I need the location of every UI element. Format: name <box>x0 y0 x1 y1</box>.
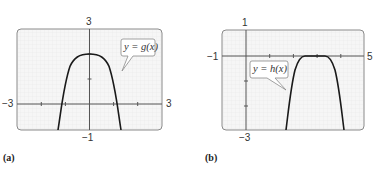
graph-b-function-label: y = h(x) <box>253 63 287 74</box>
graph-a-label-right: 3 <box>166 99 172 109</box>
graph-a-canvas <box>0 0 187 176</box>
graph-b-canvas <box>187 0 374 176</box>
graph-b-label-right: 5 <box>367 52 373 62</box>
graph-a-label-left: −3 <box>2 99 13 109</box>
graph-b-caption: (b) <box>205 152 217 163</box>
graph-a-caption: (a) <box>3 152 15 163</box>
graph-panel-b: 1 −3 −1 5 y = h(x) (b) <box>187 0 374 176</box>
graph-b-label-top: 1 <box>242 18 248 28</box>
graph-a-function-label: y = g(x) <box>124 41 158 52</box>
graph-b-label-bottom: −3 <box>239 133 250 143</box>
graph-a-label-bottom: −1 <box>82 133 93 143</box>
graph-panel-a: 3 −1 −3 3 y = g(x) (a) <box>0 0 187 176</box>
graph-b-label-left: −1 <box>207 52 218 62</box>
graph-a-label-top: 3 <box>86 17 92 27</box>
